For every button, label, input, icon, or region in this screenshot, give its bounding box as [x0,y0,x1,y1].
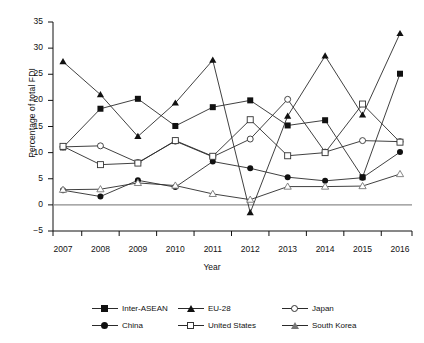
data-point [97,194,103,200]
data-point [97,143,103,149]
data-point [210,153,216,159]
legend-item-eu-28[interactable]: EU-28 [178,304,282,314]
legend-label: EU-28 [208,304,231,313]
chart-container: Percentage of total FDI Year −5051015202… [0,0,424,343]
chart-legend: Inter-ASEANEU-28JapanChinaUnited StatesS… [92,300,392,334]
legend-marker [291,322,299,329]
legend-item-japan[interactable]: Japan [282,304,392,314]
data-point [209,57,216,63]
data-point [396,30,403,36]
data-point [397,139,403,145]
filled-circle-icon [92,321,118,331]
data-point [247,117,253,123]
legend-marker [187,322,194,329]
data-point [247,209,254,215]
data-point [360,101,366,107]
data-point [322,150,328,156]
legend-marker [101,305,108,312]
data-point [285,174,291,180]
data-point [247,97,253,103]
legend-marker [101,322,108,329]
series-china [60,149,403,199]
data-point [285,122,291,128]
data-point [135,96,141,102]
data-point [397,71,403,77]
data-point [397,149,403,155]
legend-label: China [122,321,143,330]
filled-square-icon [92,304,118,314]
legend-item-china[interactable]: China [92,321,178,331]
data-point [135,160,141,166]
legend-item-south-korea[interactable]: South Korea [282,321,392,331]
open-circle-icon [282,304,308,314]
data-point [285,96,291,102]
data-point [172,123,178,129]
data-point [322,117,328,123]
open-triangle-icon [282,321,308,331]
data-point [247,165,253,171]
data-point [284,183,291,189]
data-point [360,175,366,181]
data-point [360,138,366,144]
plot-area [0,0,424,343]
open-square-icon [178,321,204,331]
legend-marker [291,305,298,312]
filled-triangle-icon [178,304,204,314]
legend-label: United States [208,321,256,330]
legend-label: South Korea [312,321,356,330]
data-point [285,153,291,159]
data-point [396,170,403,176]
legend-item-united-states[interactable]: United States [178,321,282,331]
data-point [322,183,329,189]
data-point [97,106,103,112]
data-point [210,104,216,110]
legend-marker [187,305,195,312]
legend-label: Inter-ASEAN [122,304,168,313]
series-south-korea [59,170,403,202]
data-point [322,52,329,58]
data-point [59,58,66,64]
data-point [359,111,366,117]
data-point [97,162,103,168]
data-point [60,143,66,149]
series-united-states [60,101,403,168]
legend-label: Japan [312,304,334,313]
data-point [172,138,178,144]
data-point [247,136,253,142]
data-point [284,112,291,118]
legend-item-inter-asean[interactable]: Inter-ASEAN [92,304,178,314]
